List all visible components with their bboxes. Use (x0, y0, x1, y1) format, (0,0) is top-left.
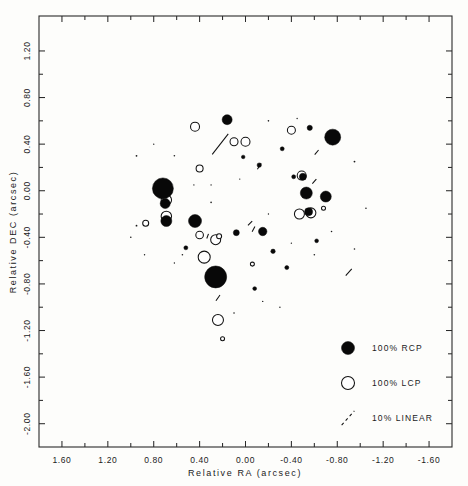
noise-speck (182, 254, 184, 256)
legend-label: 10% LINEAR (372, 413, 433, 423)
rcp-point (271, 249, 275, 253)
rcp-point (259, 227, 267, 235)
y-tick-label: 0.80 (22, 88, 32, 107)
noise-speck (210, 202, 212, 204)
noise-speck (153, 143, 154, 144)
x-tick-label: 0.80 (144, 455, 163, 465)
rcp-point (300, 187, 312, 199)
rcp-point (205, 266, 227, 288)
noise-speck (136, 225, 138, 227)
x-tick-label: 1.20 (98, 455, 117, 465)
y-tick-label: -1.20 (22, 319, 32, 341)
legend-swatch-lcp (342, 377, 355, 390)
lcp-point (241, 137, 250, 146)
lcp-point (196, 165, 203, 172)
y-axis-tick-labels: 1.200.800.400.00-0.40-0.80-1.20-1.60-2.0… (22, 41, 32, 434)
y-tick-label: -1.60 (22, 366, 32, 388)
rcp-point (307, 125, 312, 130)
lcp-point (322, 206, 326, 210)
x-axis-title: Relative RA (arcsec) (188, 468, 302, 478)
figure-canvas: 1.601.200.800.400.00-0.40-0.80-1.20-1.60… (0, 0, 468, 486)
y-tick-label: 0.00 (22, 181, 32, 200)
lcp-point (143, 220, 149, 226)
noise-speck (314, 254, 316, 256)
x-tick-label: 0.00 (236, 455, 255, 465)
noise-speck (331, 231, 333, 233)
y-tick-label: 0.40 (22, 135, 32, 154)
lcp-point (212, 315, 223, 326)
rcp-point (305, 208, 313, 216)
rcp-point (161, 216, 172, 227)
lcp-point (221, 337, 225, 341)
rcp-point (292, 175, 296, 179)
noise-speck (193, 184, 194, 185)
lcp-point (196, 231, 204, 239)
noise-speck (233, 312, 235, 314)
lcp-point (191, 122, 200, 131)
noise-speck (144, 254, 145, 255)
noise-speck (354, 161, 356, 163)
x-tick-label: 0.40 (190, 455, 209, 465)
x-tick-label: -0.80 (326, 455, 348, 465)
lcp-point (230, 138, 238, 146)
noise-speck (210, 184, 211, 185)
y-tick-label: -0.80 (22, 273, 32, 295)
x-tick-label: -1.20 (372, 455, 394, 465)
x-axis-tick-labels: 1.601.200.800.400.00-0.40-0.80-1.20-1.60 (52, 455, 440, 465)
rcp-point (285, 266, 289, 270)
lcp-point (250, 262, 254, 266)
x-tick-label: -1.60 (418, 455, 440, 465)
rcp-point (233, 230, 239, 236)
rcp-point (253, 287, 257, 291)
noise-speck (136, 155, 138, 157)
rcp-point (299, 173, 306, 180)
rcp-point (257, 163, 261, 167)
y-tick-label: 1.20 (22, 41, 32, 60)
rcp-point (222, 115, 232, 125)
y-tick-label: -0.40 (22, 226, 32, 248)
noise-speck (130, 237, 132, 239)
lcp-point (287, 126, 295, 134)
rcp-point (184, 246, 188, 250)
noise-speck (354, 248, 356, 250)
noise-speck (174, 155, 176, 157)
noise-speck (291, 242, 292, 243)
lcp-point (198, 251, 210, 263)
lcp-point (217, 234, 222, 239)
noise-speck (268, 120, 270, 122)
noise-speck (239, 178, 240, 179)
legend-label: 100% LCP (372, 378, 421, 388)
x-tick-label: 1.60 (52, 455, 71, 465)
noise-speck (262, 301, 263, 302)
rcp-point (189, 215, 202, 228)
x-tick-label: -0.40 (280, 455, 302, 465)
rcp-point (160, 199, 170, 209)
noise-speck (296, 118, 297, 119)
rcp-point (325, 129, 341, 145)
noise-speck (365, 207, 367, 209)
rcp-point (241, 155, 245, 159)
legend-label: 100% RCP (372, 343, 423, 353)
rcp-point (152, 178, 173, 199)
noise-speck (279, 307, 280, 308)
rcp-point (320, 191, 331, 202)
rcp-point (280, 147, 284, 151)
noise-speck (268, 213, 269, 214)
noise-speck (174, 262, 175, 263)
polarization-map-plot: 1.601.200.800.400.00-0.40-0.80-1.20-1.60… (0, 0, 468, 486)
lcp-point (294, 209, 304, 219)
rcp-point (315, 239, 319, 243)
legend-swatch-rcp (342, 342, 355, 355)
y-axis-title: Relative DEC (arcsec) (8, 171, 18, 294)
y-tick-label: -2.00 (22, 413, 32, 435)
